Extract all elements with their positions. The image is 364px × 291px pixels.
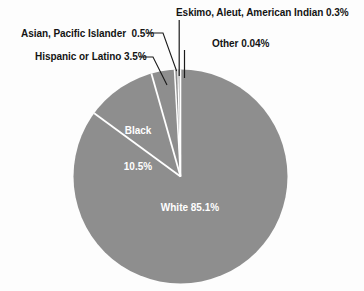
pie-label-black-value: 10.5% [107, 161, 169, 173]
pie-chart: Eskimo, Aleut, American Indian 0.3% Othe… [0, 0, 364, 291]
pie-label-hispanic-or-latino: Hispanic or Latino 3.5% [35, 51, 147, 63]
pie-label-white: White 85.1% [140, 202, 240, 214]
pie-label-eskimo-aleut-american-indian: Eskimo, Aleut, American Indian 0.3% [176, 7, 349, 19]
pie-label-black-name: Black [107, 125, 169, 137]
pie-label-black: Black 10.5% [107, 101, 169, 197]
pie-chart-graphic [0, 0, 364, 291]
pie-label-other: Other 0.04% [212, 38, 269, 50]
pie-label-asian-pacific-islander: Asian, Pacific Islander 0.5% [21, 28, 154, 40]
